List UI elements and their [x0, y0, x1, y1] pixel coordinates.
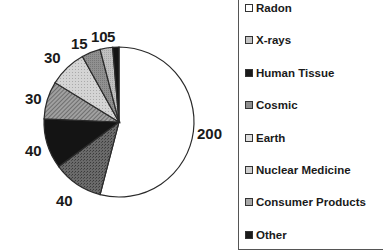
legend-swatch: [245, 198, 253, 206]
legend-item-earth: Earth: [245, 132, 285, 144]
legend-swatch: [245, 36, 253, 44]
legend-item-radon: Radon: [245, 2, 292, 14]
legend-swatch: [245, 4, 253, 12]
legend-label: X-rays: [256, 34, 291, 46]
legend-label: Other: [256, 229, 287, 241]
legend-label: Radon: [256, 2, 292, 14]
slice-value-label: 10: [91, 29, 108, 44]
slice-value-label: 40: [25, 143, 42, 158]
legend-swatch: [245, 231, 253, 239]
slice-value-label: 5: [107, 29, 115, 44]
legend: RadonX-raysHuman TissueCosmicEarthNuclea…: [238, 0, 383, 250]
legend-swatch: [245, 134, 253, 142]
slice-value-label: 15: [71, 36, 88, 51]
slice-value-label: 200: [197, 126, 222, 141]
slice-value-label: 30: [44, 50, 61, 65]
legend-item-other: Other: [245, 229, 287, 241]
legend-label: Cosmic: [256, 99, 298, 111]
legend-item-human-tissue: Human Tissue: [245, 67, 334, 79]
legend-item-nuclear-medicine: Nuclear Medicine: [245, 164, 351, 176]
legend-label: Human Tissue: [256, 67, 334, 79]
legend-swatch: [245, 166, 253, 174]
legend-item-cosmic: Cosmic: [245, 99, 298, 111]
legend-swatch: [245, 69, 253, 77]
legend-swatch: [245, 101, 253, 109]
slice-value-label: 30: [25, 91, 42, 106]
legend-label: Earth: [256, 132, 285, 144]
legend-item-x-rays: X-rays: [245, 34, 291, 46]
legend-label: Consumer Products: [256, 196, 366, 208]
slice-value-label: 40: [56, 193, 73, 208]
legend-item-consumer-products: Consumer Products: [245, 196, 366, 208]
legend-label: Nuclear Medicine: [256, 164, 351, 176]
